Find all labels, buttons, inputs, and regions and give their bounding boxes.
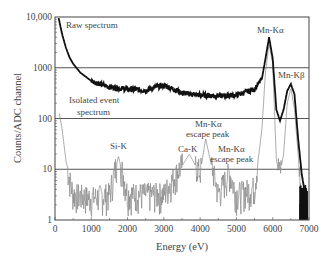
annotation-mn-ka: Mn-Kα <box>257 25 284 35</box>
annotation-escape-peak-2b: escape peak <box>210 154 254 164</box>
isolated-event-series <box>59 44 303 218</box>
annotation-ca-k: Ca-K <box>178 144 198 154</box>
annotation-escape-peak-2a: Mn-Kα <box>218 144 245 154</box>
x-tick-label: 2000 <box>118 224 137 234</box>
data-series <box>59 18 308 220</box>
x-tick-label: 3000 <box>154 224 173 234</box>
y-tick-label: 1 <box>47 215 52 225</box>
annotation-escape-peak-1a: Mn-Kα <box>195 119 222 129</box>
y-tick-labels: 110100100010,000 <box>26 12 52 225</box>
y-tick-label: 10 <box>43 164 53 174</box>
y-tick-label: 10,000 <box>26 12 52 22</box>
annotation-escape-peak-1b: escape peak <box>186 129 230 139</box>
annotation-isolated-event-2: spectrum <box>77 107 110 117</box>
annotation-si-k: Si-K <box>110 141 128 151</box>
annotation-isolated-event: Isolated event <box>69 95 120 105</box>
x-tick-labels: 01000200030004000500060007000 <box>53 224 319 234</box>
annotation-raw-spectrum: Raw spectrum <box>66 20 118 30</box>
y-tick-label: 100 <box>38 114 53 124</box>
x-axis-title: Energy (eV) <box>156 241 208 253</box>
x-tick-label: 7000 <box>300 224 319 234</box>
y-tick-label: 1000 <box>33 63 52 73</box>
annotation-mn-kb: Mn-Kβ <box>278 70 305 80</box>
x-tick-label: 5000 <box>227 224 246 234</box>
x-tick-label: 0 <box>53 224 58 234</box>
spectrum-chart: 110100100010,000 01000200030004000500060… <box>0 0 331 261</box>
x-tick-label: 1000 <box>82 224 101 234</box>
x-tick-label: 6000 <box>263 224 282 234</box>
y-axis-title: Counts/ADC channel <box>12 73 23 163</box>
x-tick-label: 4000 <box>191 224 210 234</box>
